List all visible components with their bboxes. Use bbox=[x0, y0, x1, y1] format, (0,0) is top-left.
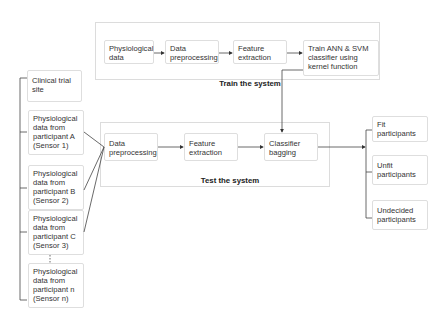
connectors bbox=[0, 0, 448, 328]
